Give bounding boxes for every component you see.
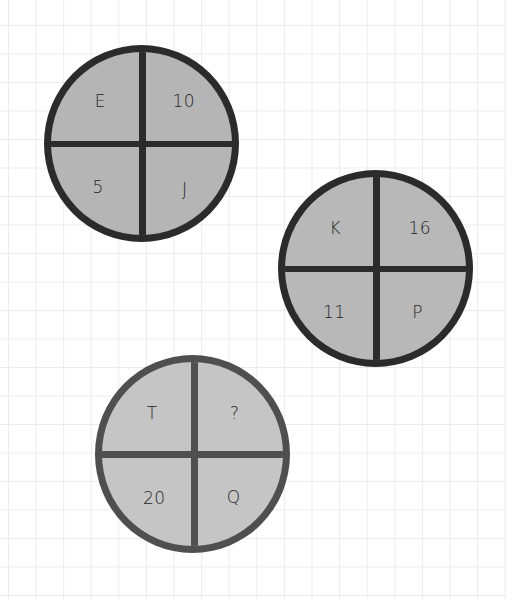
- quadrant-top-left: E: [51, 52, 142, 144]
- quadrant-label: 16: [408, 218, 431, 238]
- quadrant-label: E: [95, 91, 106, 111]
- puzzle-circle-2: K 16 11 P: [278, 170, 473, 367]
- quadrant-bottom-left: 20: [102, 454, 193, 546]
- divider-horizontal: [51, 141, 232, 147]
- puzzle-circle-3: T ? 20 Q: [95, 355, 290, 553]
- quadrant-bottom-left: 11: [285, 269, 376, 361]
- quadrant-top-right: 16: [376, 177, 467, 269]
- quadrant-label: P: [412, 302, 423, 322]
- quadrant-label: 5: [93, 177, 104, 197]
- quadrant-top-left: T: [102, 362, 193, 454]
- quadrant-bottom-left: 5: [51, 144, 142, 236]
- divider-horizontal: [102, 451, 283, 458]
- quadrant-label: Q: [227, 487, 241, 507]
- quadrant-label: 10: [172, 91, 195, 111]
- quadrant-top-right: ?: [193, 362, 284, 454]
- question-mark: ?: [230, 403, 240, 423]
- quadrant-top-left: K: [285, 177, 376, 269]
- quadrant-bottom-right: P: [376, 269, 467, 361]
- quadrant-label: 11: [323, 302, 346, 322]
- quadrant-label: T: [147, 403, 158, 423]
- quadrant-label: K: [329, 218, 341, 238]
- puzzle-circle-1: E 10 5 J: [44, 45, 239, 242]
- quadrant-bottom-right: J: [142, 144, 233, 236]
- divider-horizontal: [285, 266, 466, 272]
- quadrant-top-right: 10: [142, 52, 233, 144]
- quadrant-bottom-right: Q: [193, 454, 284, 546]
- quadrant-label: 20: [143, 488, 166, 508]
- quadrant-label: J: [182, 179, 188, 199]
